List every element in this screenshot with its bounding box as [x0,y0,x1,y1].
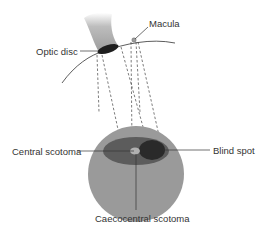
retina-arc [62,41,175,83]
blind-spot-label: Blind spot [213,146,255,156]
caecocentral-scotoma-label: Caecocentral scotoma [95,214,190,224]
macula-label: Macula [149,19,180,29]
blind-spot [139,140,165,160]
central-scotoma-label: Central scotoma [12,147,81,157]
visual-field-diagram [0,0,261,229]
optic-disc-label: Optic disc [36,47,78,57]
